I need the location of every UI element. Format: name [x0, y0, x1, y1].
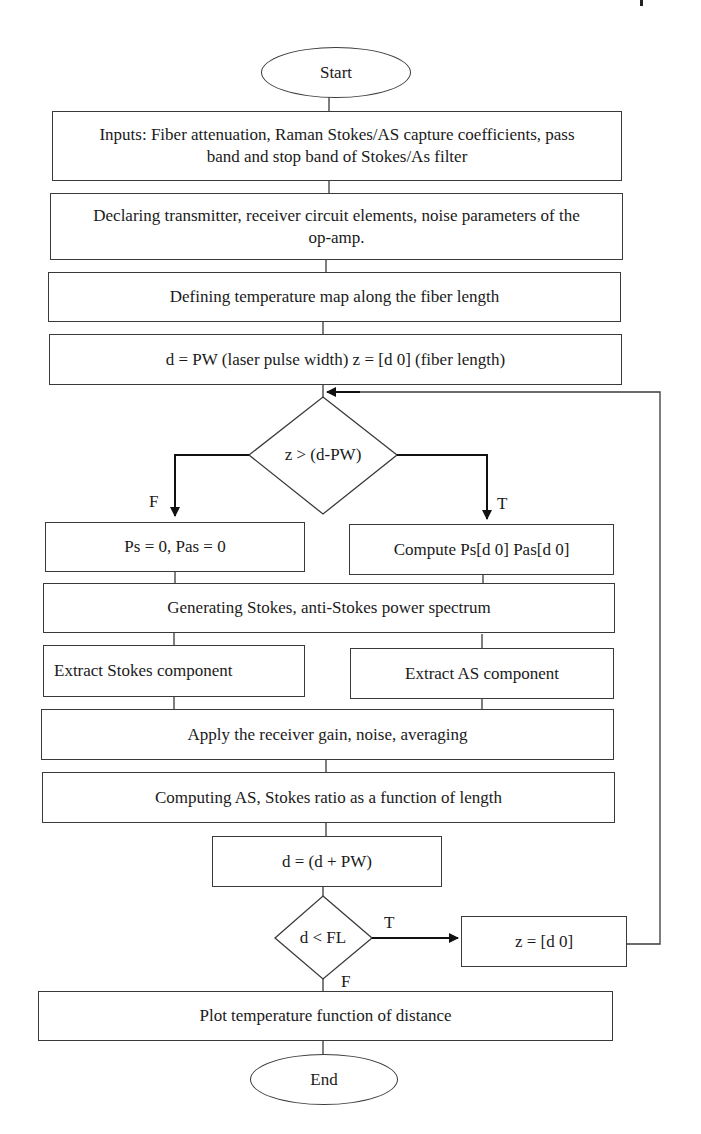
- start-node: Start: [261, 47, 411, 98]
- generate-spectrum-box: Generating Stokes, anti-Stokes power spe…: [43, 583, 615, 633]
- decision-z-label: z > (d-PW): [260, 440, 386, 470]
- temperature-map-label: Defining temperature map along the fiber…: [170, 286, 500, 308]
- inputs-process-box: Inputs: Fiber attenuation, Raman Stokes/…: [52, 111, 622, 181]
- decision-d-label: d < FL: [283, 924, 363, 952]
- extract-stokes-label: Extract Stokes component: [54, 660, 232, 682]
- end-node: End: [250, 1054, 398, 1105]
- extract-as-label: Extract AS component: [405, 663, 559, 685]
- end-label: End: [310, 1069, 337, 1091]
- inputs-label: Inputs: Fiber attenuation, Raman Stokes/…: [83, 124, 591, 168]
- declare-label: Declaring transmitter, receiver circuit …: [87, 205, 586, 249]
- plot-label: Plot temperature function of distance: [199, 1005, 451, 1027]
- increment-d-box: d = (d + PW): [212, 836, 442, 887]
- temperature-map-box: Defining temperature map along the fiber…: [48, 272, 621, 322]
- apply-gain-label: Apply the receiver gain, noise, averagin…: [188, 724, 468, 746]
- compute-ps-label: Compute Ps[d 0] Pas[d 0]: [394, 539, 570, 561]
- ps-zero-label: Ps = 0, Pas = 0: [124, 536, 225, 558]
- reset-z-label: z = [d 0]: [515, 931, 573, 953]
- start-label: Start: [320, 62, 352, 84]
- d-false-label: F: [341, 972, 350, 992]
- apply-gain-box: Apply the receiver gain, noise, averagin…: [41, 709, 614, 760]
- plot-box: Plot temperature function of distance: [38, 991, 613, 1041]
- extract-stokes-box: Extract Stokes component: [43, 645, 305, 697]
- z-false-label: F: [149, 492, 158, 512]
- increment-d-label: d = (d + PW): [282, 851, 372, 873]
- declare-process-box: Declaring transmitter, receiver circuit …: [50, 193, 623, 260]
- extract-as-box: Extract AS component: [350, 648, 614, 699]
- compute-ratio-label: Computing AS, Stokes ratio as a function…: [155, 787, 502, 809]
- init-label: d = PW (laser pulse width) z = [d 0] (fi…: [166, 349, 505, 371]
- reset-z-box: z = [d 0]: [461, 916, 627, 967]
- init-box: d = PW (laser pulse width) z = [d 0] (fi…: [49, 334, 622, 385]
- flowchart-canvas: Start Inputs: Fiber attenuation, Raman S…: [0, 0, 701, 1134]
- z-true-label: T: [497, 494, 507, 514]
- d-true-label: T: [384, 913, 394, 933]
- ps-zero-box: Ps = 0, Pas = 0: [45, 522, 305, 572]
- compute-ps-box: Compute Ps[d 0] Pas[d 0]: [349, 524, 614, 575]
- generate-spectrum-label: Generating Stokes, anti-Stokes power spe…: [167, 597, 490, 619]
- compute-ratio-box: Computing AS, Stokes ratio as a function…: [42, 772, 615, 823]
